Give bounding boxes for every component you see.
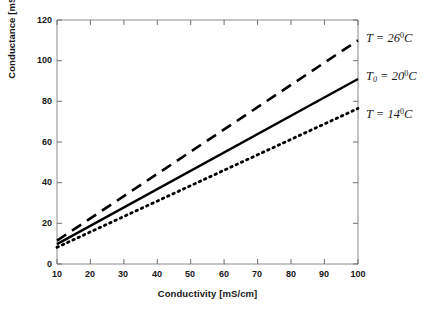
series-annotation-20c-text: T0 = 200C <box>366 69 416 83</box>
plot-area <box>0 0 432 310</box>
axes-frame <box>57 20 358 264</box>
series-annotation-14c-text: T = 140C <box>366 107 412 121</box>
series-line-dashed <box>57 40 358 240</box>
series-annotation-26c-text: T = 260C <box>366 31 412 45</box>
series-line-dotted <box>57 108 358 247</box>
series-annotation-26c: T = 260C <box>366 31 412 46</box>
series-annotation-20c: T0 = 200C <box>366 69 416 84</box>
y-axis-ticks <box>57 20 358 264</box>
chart-figure: Conductance [mS] Conductivity [mS/cm] 12… <box>0 0 432 310</box>
series-line-solid <box>57 79 358 244</box>
x-axis-ticks <box>57 20 358 264</box>
series-annotation-14c: T = 140C <box>366 107 412 122</box>
data-series-group <box>57 40 358 247</box>
